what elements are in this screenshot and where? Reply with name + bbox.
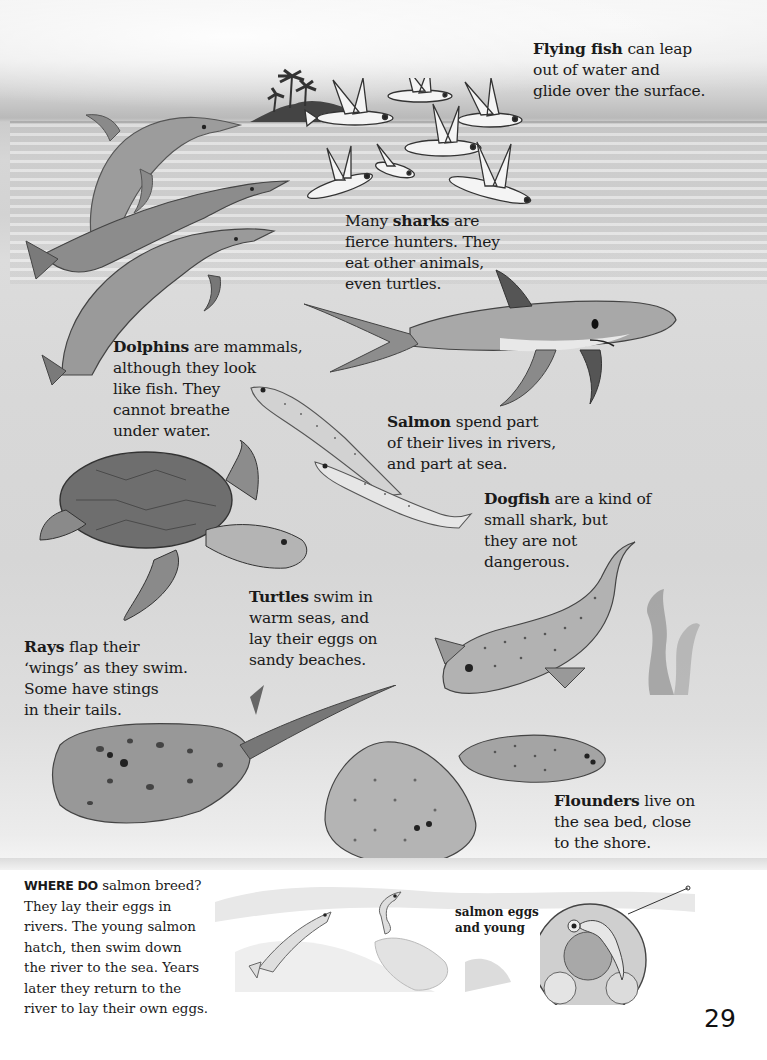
book-page: Flying fish can leap out of water and gl… (0, 0, 767, 1060)
scene-bottom-edge (0, 858, 767, 870)
caption-dogfish: Dogfish are a kind of small shark, but t… (484, 488, 651, 573)
caption-turtles: Turtles swim in warm seas, and lay their… (249, 586, 377, 671)
caption-flying-fish-title: Flying fish (533, 39, 623, 58)
caption-salmon: Salmon spend part of their lives in rive… (387, 411, 556, 475)
caption-dogfish-title: Dogfish (484, 489, 550, 508)
caption-flounders-title: Flounders (554, 791, 640, 810)
caption-flying-fish: Flying fish can leap out of water and gl… (533, 38, 705, 102)
salmon-egg-magnifier-illustration (540, 880, 700, 1005)
where-do-salmon-breed-box: WHERE DO salmon breed? They lay their eg… (24, 876, 234, 1020)
caption-salmon-title: Salmon (387, 412, 451, 431)
salmon-eggs-label: salmon eggs and young (455, 904, 539, 936)
caption-sharks-title: sharks (393, 211, 449, 230)
caption-dolphins: Dolphins are mammals, although they look… (113, 336, 303, 442)
caption-flounders: Flounders live on the sea bed, close to … (554, 790, 695, 854)
flounder-small-illustration (455, 730, 610, 785)
ocean-scene: Flying fish can leap out of water and gl… (0, 0, 767, 868)
caption-rays: Rays flap their ‘wings’ as they swim. So… (24, 636, 188, 721)
info-kicker: WHERE DO (24, 878, 98, 893)
caption-turtles-title: Turtles (249, 587, 309, 606)
page-number: 29 (704, 1004, 736, 1033)
caption-dolphins-title: Dolphins (113, 337, 189, 356)
seaweed-illustration (630, 585, 710, 695)
caption-sharks: Many sharks are fierce hunters. They eat… (345, 210, 500, 295)
caption-rays-title: Rays (24, 637, 64, 656)
